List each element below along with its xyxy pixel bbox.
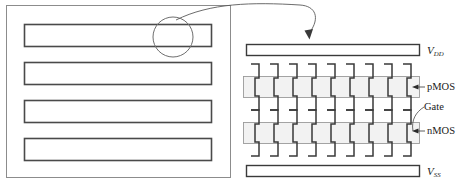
callout-arrowhead	[305, 29, 314, 40]
vss-rail	[247, 166, 420, 177]
nmos-label: nMOS	[427, 126, 455, 137]
chip-overview-panel	[7, 6, 231, 178]
cmos-cell-detail	[244, 45, 426, 177]
chip-row-bar	[25, 63, 212, 85]
vdd-rail	[247, 45, 420, 56]
chip-row-bar	[25, 101, 212, 123]
vss-label: VSS	[427, 166, 441, 177]
gate-label: Gate	[424, 102, 444, 113]
chip-row-bar	[25, 139, 212, 161]
chip-row-bar	[25, 25, 212, 47]
vdd-label: VDD	[427, 45, 444, 56]
pmos-label: pMOS	[427, 82, 455, 93]
figure-canvas: VDD pMOS Gate nMOS VSS	[0, 0, 462, 187]
diagram-artwork	[0, 0, 462, 187]
